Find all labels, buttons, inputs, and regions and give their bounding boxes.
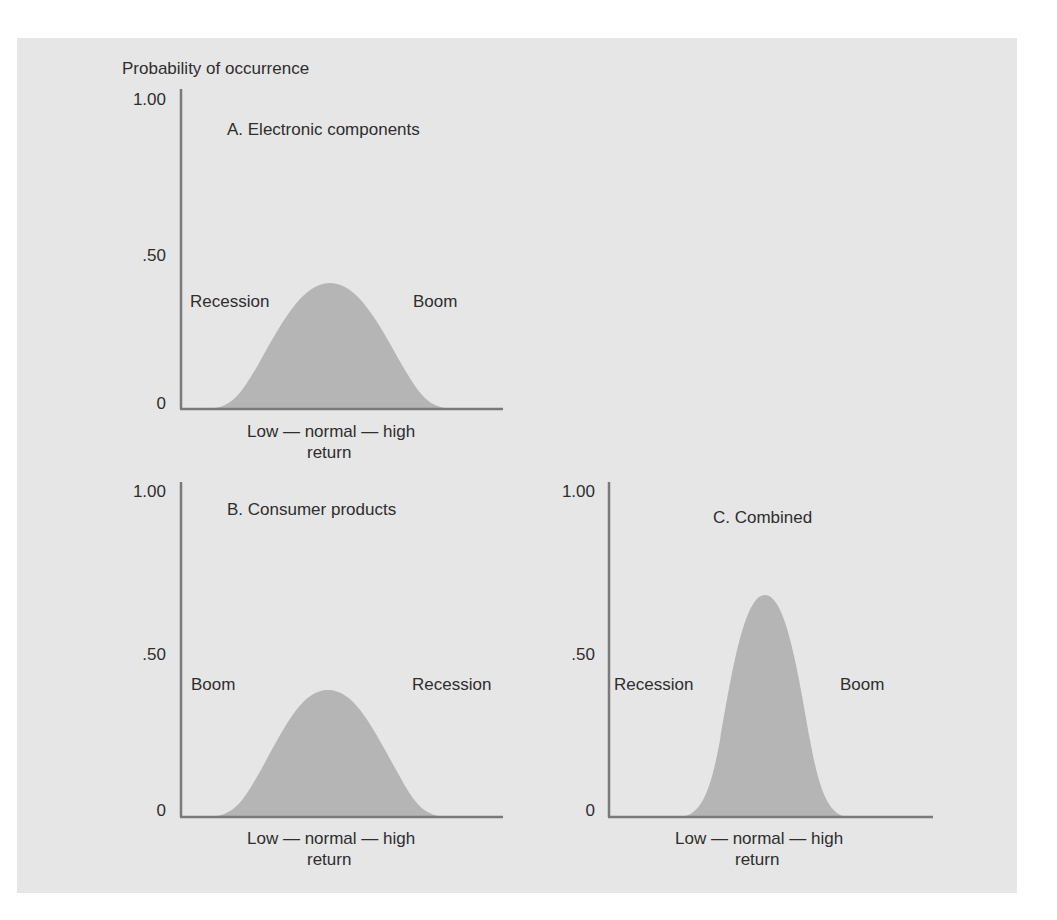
chart-b-left-label: Boom bbox=[191, 675, 235, 695]
chart-b-x-label-return: return bbox=[307, 850, 351, 870]
chart-b-tick-050: .50 bbox=[126, 645, 166, 665]
chart-a-title: A. Electronic components bbox=[227, 120, 420, 140]
chart-a-left-label: Recession bbox=[190, 292, 269, 312]
chart-graphics bbox=[0, 0, 1057, 920]
chart-a-tick-1: 1.00 bbox=[126, 90, 166, 110]
chart-c-title: C. Combined bbox=[713, 508, 812, 528]
chart-a-tick-0: 0 bbox=[126, 394, 166, 414]
chart-b-distribution-area bbox=[207, 690, 449, 817]
chart-a-x-label-return: return bbox=[307, 443, 351, 463]
chart-a-x-label: Low — normal — high bbox=[247, 422, 415, 442]
chart-a-right-label: Boom bbox=[413, 292, 457, 312]
chart-c-right-label: Boom bbox=[840, 675, 884, 695]
chart-c-x-label-return: return bbox=[735, 850, 779, 870]
chart-b-right-label: Recession bbox=[412, 675, 491, 695]
chart-c-x-label: Low — normal — high bbox=[675, 829, 843, 849]
chart-b-title: B. Consumer products bbox=[227, 500, 396, 520]
chart-b-tick-1: 1.00 bbox=[126, 482, 166, 502]
chart-c-left-label: Recession bbox=[614, 675, 693, 695]
chart-c-tick-0: 0 bbox=[555, 801, 595, 821]
y-axis-label: Probability of occurrence bbox=[122, 59, 309, 79]
chart-c-tick-050: .50 bbox=[555, 645, 595, 665]
chart-c-tick-1: 1.00 bbox=[555, 482, 595, 502]
chart-a-tick-050: .50 bbox=[126, 246, 166, 266]
chart-b-tick-0: 0 bbox=[126, 801, 166, 821]
chart-c-distribution-area bbox=[678, 595, 850, 817]
chart-b-x-label: Low — normal — high bbox=[247, 829, 415, 849]
